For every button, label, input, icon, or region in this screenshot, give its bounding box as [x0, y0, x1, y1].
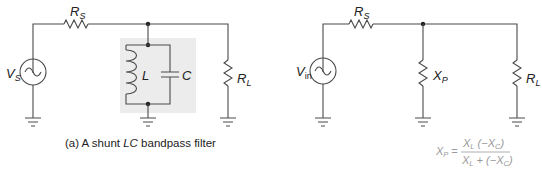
circuit-diagrams: RS VS L C RL (a) A shunt LC bandpass fil… [0, 0, 542, 169]
svg-text:XP=: XP= [435, 145, 458, 159]
resistor-rl-icon [224, 60, 232, 86]
diagram-a-shunt-lc-filter: RS VS L C RL (a) A shunt LC bandpass fil… [6, 4, 251, 149]
resistor-rl-icon [513, 60, 521, 86]
caption-a: (a) A shunt LC bandpass filter [65, 137, 216, 149]
label-rl: RL [526, 71, 540, 88]
label-rs: RS [70, 4, 85, 21]
equation-denominator: XL + (−XC) [461, 154, 513, 168]
label-rl: RL [237, 71, 251, 88]
label-l: L [142, 68, 149, 83]
shunt-reactance-icon [419, 60, 427, 86]
label-vin: Vin [296, 64, 312, 81]
ground-icon [315, 118, 331, 126]
ground-icon [509, 118, 525, 126]
equation-numerator: XL (−XC) [462, 137, 504, 151]
diagram-b-equivalent-circuit: RS Vin XP RL XP= XL (−XC) XL + (−XC) [296, 4, 540, 168]
ground-icon [25, 118, 41, 126]
xp-equation: XP= XL (−XC) XL + (−XC) [435, 137, 513, 168]
resistor-rs-icon [349, 20, 373, 28]
label-xp: XP [432, 68, 448, 85]
ground-icon [140, 118, 156, 126]
label-vs: VS [6, 66, 21, 83]
label-rs: RS [354, 4, 369, 21]
resistor-rs-icon [64, 20, 88, 28]
label-c: C [182, 68, 192, 83]
ground-icon [415, 118, 431, 126]
ground-icon [220, 118, 236, 126]
